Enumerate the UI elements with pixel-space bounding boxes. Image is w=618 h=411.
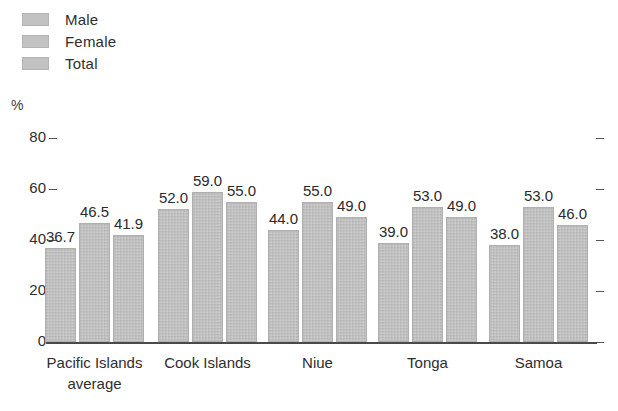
bar[interactable] [336,217,367,342]
bar[interactable] [446,217,477,342]
bar-value-label: 52.0 [159,190,188,205]
bar-value-label: 38.0 [490,226,519,241]
bar[interactable] [412,207,443,342]
bar[interactable] [45,248,76,342]
bar-value-label: 53.0 [524,188,553,203]
bar-value-label: 46.5 [80,204,109,219]
x-axis-category-label: Pacific Islands average [30,352,160,394]
bar[interactable] [158,209,189,342]
bar-value-label: 55.0 [227,183,256,198]
x-axis-baseline [46,342,597,344]
y-axis-tick-mark-right-0 [596,342,604,343]
bar-group: 36.746.541.9 [45,0,144,342]
bar-value-label: 53.0 [413,188,442,203]
bar-value-label: 41.9 [114,216,143,231]
bar[interactable] [378,243,409,342]
x-axis-category-label: Samoa [474,352,604,373]
bar[interactable] [302,202,333,342]
bar-value-label: 49.0 [447,198,476,213]
bar-value-label: 55.0 [303,183,332,198]
bar-value-label: 44.0 [269,211,298,226]
bar-value-label: 46.0 [558,206,587,221]
bar-group: 44.055.049.0 [268,0,367,342]
bar[interactable] [192,192,223,342]
bar-value-label: 49.0 [337,198,366,213]
bar-group: 52.059.055.0 [158,0,257,342]
bar[interactable] [489,245,520,342]
bar[interactable] [523,207,554,342]
bar[interactable] [557,225,588,342]
bar[interactable] [79,223,110,342]
bar[interactable] [268,230,299,342]
bar-value-label: 59.0 [193,173,222,188]
bar[interactable] [113,235,144,342]
bar-group: 39.053.049.0 [378,0,477,342]
plot-area: 36.746.541.952.059.055.044.055.049.039.0… [0,0,618,342]
bar-value-label: 39.0 [379,224,408,239]
bar[interactable] [226,202,257,342]
bar-value-label: 36.7 [46,229,75,244]
bar-chart: Male Female Total % 806040200 36.746.541… [0,0,618,411]
bar-group: 38.053.046.0 [489,0,588,342]
